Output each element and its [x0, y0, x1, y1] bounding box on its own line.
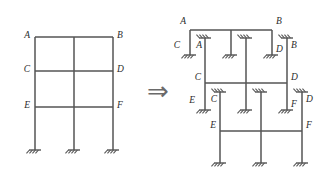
support-hatch-tick [26, 150, 29, 153]
structural-frame-figure: ABCDEF⇒ABCDABCDEFCDEF [0, 0, 328, 179]
implies-arrow-glyph: ⇒ [147, 76, 169, 106]
story-2-top-support-1 [196, 35, 211, 38]
support-hatch-tick [263, 55, 266, 58]
support-hatch-tick [237, 35, 240, 38]
frame-joint-label-A: A [23, 30, 30, 40]
story-3-label-A: A [179, 16, 186, 26]
story-2-label-F: F [290, 99, 297, 109]
story-3-base-support-3 [263, 55, 278, 58]
support-hatch-tick [211, 89, 214, 92]
support-hatch-tick [278, 35, 281, 38]
story-2-label-E: E [188, 95, 195, 105]
story-2-label-B: B [291, 40, 297, 50]
story-1-label-D: D [305, 94, 313, 104]
support-hatch-tick [293, 163, 296, 166]
support-hatch-tick [237, 110, 240, 113]
story-3-label-B: B [276, 16, 282, 26]
support-hatch-tick [65, 150, 68, 153]
support-hatch-tick [196, 110, 199, 113]
support-hatch-tick [211, 163, 214, 166]
story-2-label-C: C [195, 72, 202, 82]
story-2-top-support-3 [278, 35, 293, 38]
story-3-base-support-1 [181, 55, 196, 58]
frame-base-support-3 [104, 150, 119, 153]
frame-base-support-2 [65, 150, 80, 153]
frame-joint-label-D: D [116, 64, 124, 74]
story-2-base-support-2 [237, 110, 252, 113]
story-1-top-support-2 [252, 89, 267, 92]
support-hatch-tick [252, 163, 255, 166]
story-3-label-D: D [275, 44, 283, 54]
story-1-base-support-3 [293, 163, 308, 166]
support-hatch-tick [293, 89, 296, 92]
frame-joint-label-F: F [116, 100, 123, 110]
story-1-label-F: F [305, 120, 312, 130]
support-hatch-tick [222, 55, 225, 58]
story-2-top-support-2 [237, 35, 252, 38]
story-1-base-support-2 [252, 163, 267, 166]
story-2-base-support-1 [196, 110, 211, 113]
story-1-top-support-3 [293, 89, 308, 92]
story-1-label-E: E [209, 120, 216, 130]
story-1-label-C: C [211, 94, 218, 104]
support-hatch-tick [252, 89, 255, 92]
support-hatch-tick [278, 110, 281, 113]
support-hatch-tick [181, 55, 184, 58]
story-3-label-C: C [174, 40, 181, 50]
story-1-top-support-1 [211, 89, 226, 92]
story-2-base-support-3 [278, 110, 293, 113]
implies-arrow: ⇒ [147, 76, 169, 106]
support-hatch-tick [104, 150, 107, 153]
story-2-label-A: A [195, 40, 202, 50]
story-1-base-support-1 [211, 163, 226, 166]
story-2-label-D: D [290, 72, 298, 82]
figure-canvas: ABCDEF⇒ABCDABCDEFCDEF [0, 0, 328, 179]
frame-joint-label-C: C [24, 64, 31, 74]
frame-base-support-1 [26, 150, 41, 153]
story-3-base-support-2 [222, 55, 237, 58]
support-hatch-tick [196, 35, 199, 38]
frame-joint-label-B: B [117, 30, 123, 40]
frame-joint-label-E: E [23, 100, 30, 110]
